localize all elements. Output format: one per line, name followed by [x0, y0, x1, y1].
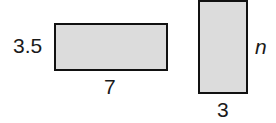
rectangle-b-height-label: n: [255, 36, 267, 57]
rectangle-a-width-label: 7: [104, 76, 116, 97]
rectangle-a: [54, 23, 168, 71]
rectangle-b: [198, 0, 248, 94]
rectangle-b-width-label: 3: [217, 99, 229, 120]
rectangle-a-height-label: 3.5: [13, 35, 42, 56]
